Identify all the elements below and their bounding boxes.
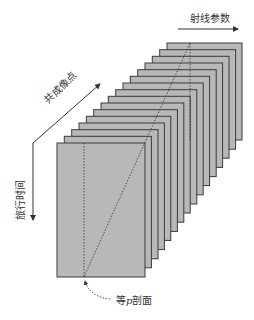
equal-p-pointer-arrow <box>85 281 110 299</box>
travel-time-label: 旅行时间 <box>12 180 27 220</box>
diagram-canvas: 射线参数 共成像点 旅行时间 等p剖面 <box>0 0 254 320</box>
stacked-panels-figure <box>0 0 254 320</box>
equal-p-section-label: 等p剖面 <box>116 292 152 307</box>
ray-parameter-label: 射线参数 <box>190 10 230 25</box>
data-panel <box>57 143 145 277</box>
panel-stack <box>57 43 242 277</box>
